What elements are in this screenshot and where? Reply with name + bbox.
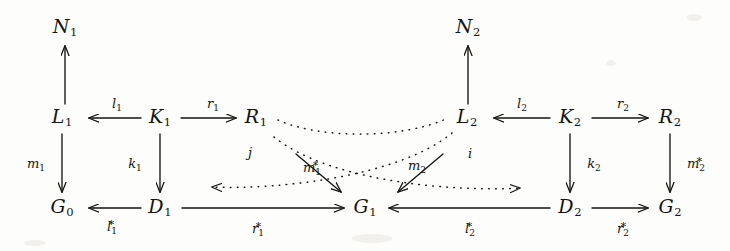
- edge-label-r1-star: r∗1: [252, 219, 264, 238]
- edge-label-i: i: [468, 147, 472, 160]
- node-N1: N1: [53, 17, 78, 39]
- node-D2: D2: [558, 197, 581, 219]
- edge-label-l1: l1: [112, 97, 122, 113]
- node-R2: R2: [659, 107, 681, 129]
- edge-label-k1: k1: [128, 157, 142, 173]
- edge-label-k2: k2: [587, 157, 601, 173]
- node-G2: G2: [658, 197, 681, 219]
- diagram-canvas: N1 N2 L1 K1 R1 L2 K2 R2 G0 D1 G1 D2 G2 l…: [0, 0, 730, 251]
- edge-label-m1: m1: [27, 157, 45, 173]
- node-N2: N2: [456, 17, 481, 39]
- node-R1: R1: [245, 107, 267, 129]
- edge-label-r2: r2: [617, 97, 629, 113]
- node-G1: G1: [353, 197, 376, 219]
- node-D1: D1: [148, 197, 171, 219]
- arrow-R1-L2-dotted: [278, 119, 446, 134]
- scan-speckle: [352, 234, 392, 243]
- node-K2: K2: [559, 107, 581, 129]
- edge-label-l2-star: l∗2: [465, 219, 475, 238]
- scan-speckle: [24, 240, 46, 246]
- edge-label-r1: r1: [207, 97, 219, 113]
- edge-label-m2: m2: [408, 159, 426, 175]
- node-K1: K1: [149, 107, 171, 129]
- scan-speckle: [606, 60, 616, 66]
- scan-speckle: [686, 14, 702, 21]
- edge-label-m1-star: m∗1: [303, 158, 321, 177]
- edge-label-m2-star: m∗2: [687, 154, 705, 173]
- edge-label-j: j: [248, 146, 252, 159]
- edge-label-r2-star: r∗2: [617, 219, 629, 238]
- node-L2: L2: [457, 107, 478, 129]
- node-G0: G0: [50, 197, 73, 219]
- edge-label-l1-star: l∗1: [107, 217, 117, 236]
- edge-label-l2: l2: [517, 97, 527, 113]
- node-L1: L1: [52, 107, 73, 129]
